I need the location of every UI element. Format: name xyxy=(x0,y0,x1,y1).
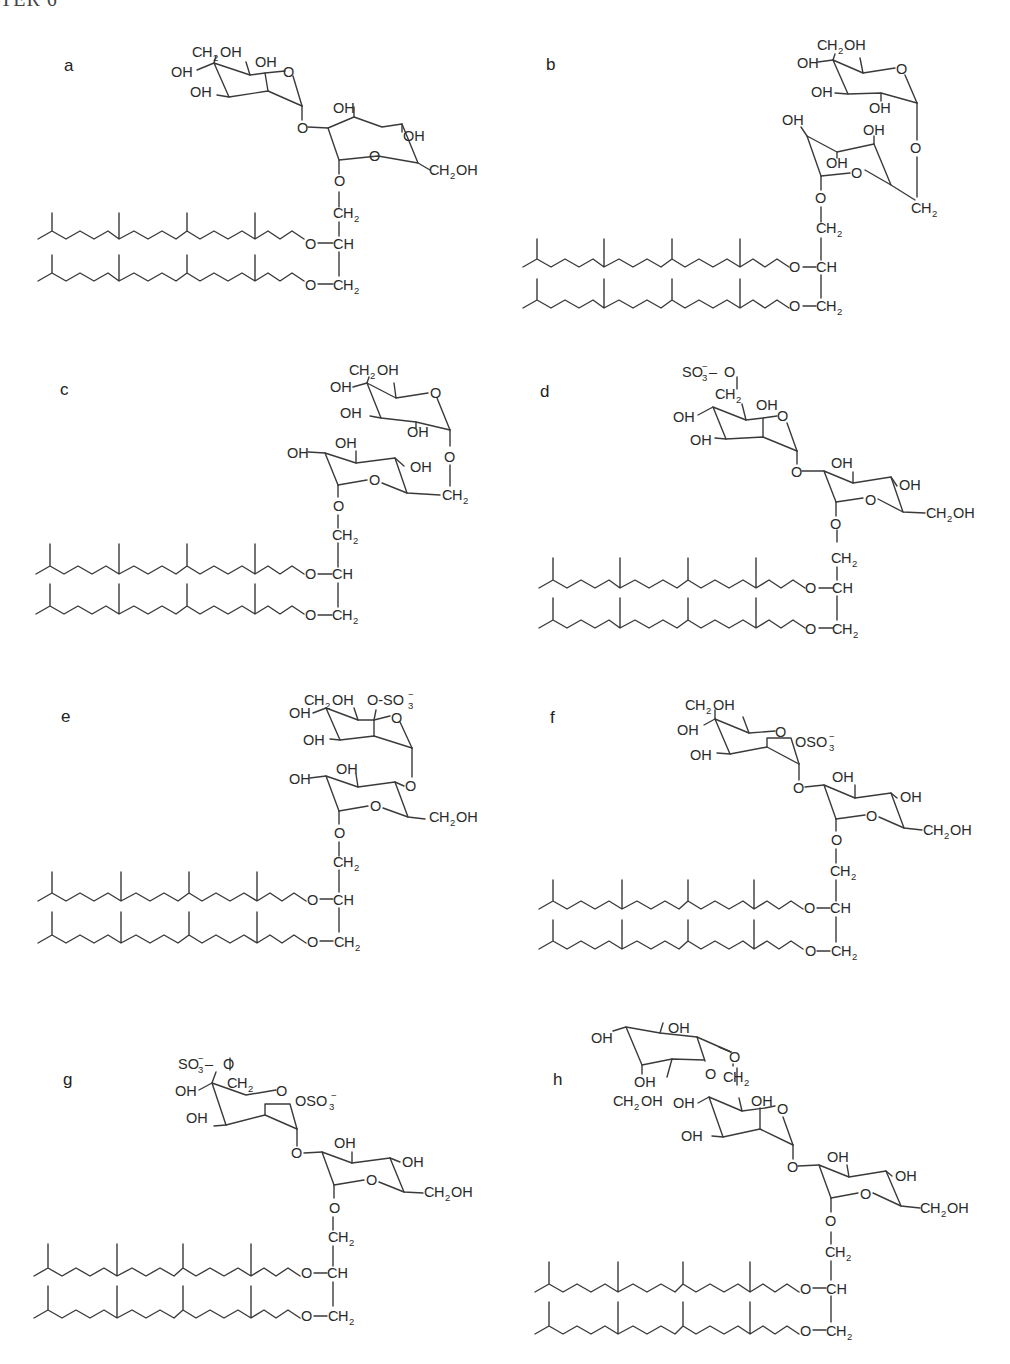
svg-text:OH: OH xyxy=(289,771,311,787)
svg-text:H: H xyxy=(930,1200,940,1216)
svg-text:O: O xyxy=(297,120,308,136)
svg-text:2: 2 xyxy=(847,1331,852,1342)
svg-text:O: O xyxy=(276,1083,287,1099)
svg-text:H: H xyxy=(836,1323,846,1339)
svg-text:O: O xyxy=(800,1323,811,1339)
svg-text:CH: CH xyxy=(333,892,354,908)
svg-text:OH: OH xyxy=(900,789,922,805)
svg-text:O: O xyxy=(334,825,345,841)
svg-text:CH: CH xyxy=(830,900,851,916)
svg-text:C: C xyxy=(685,697,695,713)
svg-text:−: − xyxy=(331,1090,337,1101)
svg-text:H: H xyxy=(841,550,851,566)
svg-text:2: 2 xyxy=(450,817,455,828)
svg-text:−: − xyxy=(408,689,414,700)
svg-text:2: 2 xyxy=(947,513,952,524)
svg-text:OH: OH xyxy=(831,455,853,471)
svg-text:O: O xyxy=(334,173,345,189)
svg-text:SO: SO xyxy=(178,1056,199,1072)
svg-text:C: C xyxy=(816,220,826,236)
svg-text:H: H xyxy=(342,527,352,543)
svg-text:−: − xyxy=(829,731,835,742)
svg-text:2: 2 xyxy=(450,170,455,181)
svg-text:H: H xyxy=(826,298,836,314)
svg-text:C: C xyxy=(332,527,342,543)
svg-text:OH: OH xyxy=(641,1093,663,1109)
svg-text:O: O xyxy=(729,1049,740,1065)
svg-text:OH: OH xyxy=(190,84,212,100)
svg-text:H: H xyxy=(342,607,352,623)
svg-text:OH: OH xyxy=(673,409,695,425)
panel-c: c O CH O CH2 CH2 O OH OH OH O CH2 O xyxy=(0,330,505,640)
svg-text:OH: OH xyxy=(303,732,325,748)
svg-text:OH: OH xyxy=(634,1074,656,1090)
svg-text:H: H xyxy=(343,854,353,870)
svg-text:OH: OH xyxy=(950,822,972,838)
svg-text:OH: OH xyxy=(407,424,429,440)
svg-text:C: C xyxy=(923,822,933,838)
svg-text:2: 2 xyxy=(634,1101,639,1112)
svg-text:2: 2 xyxy=(744,1077,749,1088)
panel-a: a O CH O CH2 CH2 O O OH OH O CH2OH xyxy=(0,0,505,320)
svg-text:2: 2 xyxy=(941,1208,946,1219)
svg-text:CH: CH xyxy=(327,1265,348,1281)
svg-text:O: O xyxy=(789,298,800,314)
structure-e: O CH O CH2 CH2 O OH OH O O CH2OH CH2OH O… xyxy=(0,660,505,970)
svg-text:CH: CH xyxy=(332,566,353,582)
svg-text:H: H xyxy=(314,692,324,708)
svg-text:C: C xyxy=(429,809,439,825)
structure-d: O CH O CH2 CH2 O O OH OH O CH2OH SO3−–O … xyxy=(505,330,1010,650)
svg-text:OH: OH xyxy=(333,100,355,116)
svg-text:OH: OH xyxy=(844,37,866,53)
svg-text:O: O xyxy=(301,1265,312,1281)
svg-text:OH: OH xyxy=(895,1168,917,1184)
svg-text:O: O xyxy=(305,607,316,623)
svg-text:O: O xyxy=(789,259,800,275)
svg-text:C: C xyxy=(817,37,827,53)
svg-text:2: 2 xyxy=(837,306,842,317)
structure-f: O CH O CH2 CH2 O O OH OH O CH2OH CH2OH O… xyxy=(505,660,1010,980)
svg-text:OH: OH xyxy=(869,100,891,116)
svg-text:H: H xyxy=(623,1093,633,1109)
svg-text:H: H xyxy=(237,1075,247,1091)
svg-text:OH: OH xyxy=(668,1020,690,1036)
svg-text:O: O xyxy=(305,566,316,582)
svg-text:O: O xyxy=(775,724,786,740)
svg-text:O: O xyxy=(865,492,876,508)
svg-text:OH: OH xyxy=(953,505,975,521)
svg-text:2: 2 xyxy=(463,495,468,506)
svg-text:H: H xyxy=(439,162,449,178)
svg-text:–: – xyxy=(709,364,718,380)
svg-text:OH: OH xyxy=(690,747,712,763)
svg-text:O: O xyxy=(366,1172,377,1188)
svg-text:H: H xyxy=(842,621,852,637)
svg-text:OSO: OSO xyxy=(795,734,827,750)
svg-text:H: H xyxy=(202,44,212,60)
svg-text:C: C xyxy=(328,1229,338,1245)
svg-text:3: 3 xyxy=(829,742,834,753)
svg-text:C: C xyxy=(424,1184,434,1200)
svg-text:2: 2 xyxy=(355,942,360,953)
svg-text:H: H xyxy=(933,822,943,838)
svg-text:CH: CH xyxy=(333,236,354,252)
svg-text:C: C xyxy=(723,1069,733,1085)
svg-text:2: 2 xyxy=(852,951,857,962)
svg-text:2: 2 xyxy=(370,370,375,381)
svg-text:O: O xyxy=(860,1186,871,1202)
svg-text:O: O xyxy=(851,165,862,181)
svg-text:O: O xyxy=(777,408,788,424)
structure-h: O CH O CH2 CH2 O O OH OH O CH2OH OH OH O… xyxy=(505,990,1010,1364)
structure-g: O CH O CH2 CH2 O O OH OH O CH2OH SO3−–O … xyxy=(0,1010,505,1364)
svg-text:OH: OH xyxy=(456,162,478,178)
svg-text:2: 2 xyxy=(851,871,856,882)
svg-text:H: H xyxy=(826,220,836,236)
svg-text:C: C xyxy=(333,277,343,293)
svg-text:2: 2 xyxy=(354,285,359,296)
svg-text:H: H xyxy=(936,505,946,521)
svg-text:C: C xyxy=(349,362,359,378)
svg-text:C: C xyxy=(227,1075,237,1091)
svg-text:C: C xyxy=(831,943,841,959)
svg-text:O: O xyxy=(815,190,826,206)
structure-b: O CH O CH2 CH2 O OH OH OH O CH2 O CH2OH … xyxy=(505,0,1010,330)
svg-text:O: O xyxy=(329,1200,340,1216)
